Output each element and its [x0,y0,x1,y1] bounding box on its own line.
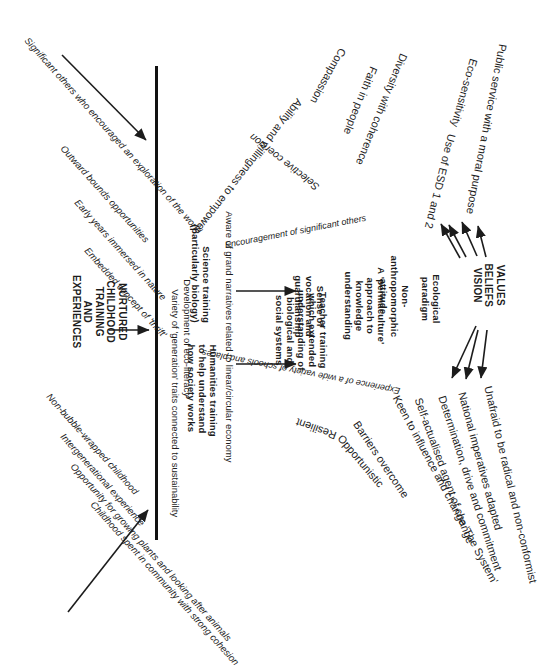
mid-non-anthropomorphic: Non- anthropomorphic attitude [378,254,411,338]
mid-permaculture-line4: understanding [342,260,353,352]
root-block-line3: TRAINING [93,265,105,359]
vision-hub-line2: BELIEFS [483,251,495,319]
arrow-hub-values-1 [441,224,460,258]
root-block-line2: CHILDHOOD [105,265,117,359]
mid-vocation: Sense of vocation and guardianship [293,267,326,345]
vision-hub-line1: VALUES [495,251,507,319]
arrow-hub-action-1 [452,326,476,378]
mid-vocation-line3: guardianship [293,267,304,345]
training-humanities-line2: to help understand [197,344,208,444]
influence-encouragement: Encouragement of significant others [224,213,367,250]
childhood-experience-4: Childhood spent in community with strong… [88,500,241,668]
vision-hub: VALUES BELIEFS VISION [472,251,507,319]
training-generation-traits: Variety of 'generation' traits connected… [170,289,181,517]
value-eco-sensitivity: Eco-sensitivity [449,57,480,128]
training-eco-literacy: Development of eco-literacy [182,279,193,397]
training-science-line1: Science training [200,223,211,323]
arrow-hub-action-2 [466,330,478,379]
arrow-hub-action-3 [481,330,487,378]
mid-vocation-line1: Sense of [314,267,325,345]
action-resilient: Resilient [294,416,338,442]
mid-permaculture-line2: approach to [364,260,375,352]
root-block-line1: NURTURED [116,265,128,359]
main-spine-line [155,66,158,540]
value-compassion: Compassion [308,46,348,105]
root-block: NURTURED CHILDHOOD TRAINING AND EXPERIEN… [70,265,128,359]
vision-hub-line3: VISION [472,251,484,319]
childhood-experience-3: Opportunity for growing plants and looki… [68,462,233,644]
root-block-line4: AND [82,265,94,359]
root-block-line5: EXPERIENCES [70,265,82,359]
mid-ecological-paradigm: Ecological paradigm [419,267,441,331]
mid-permaculture-line3: knowledge [353,260,364,352]
mid-ecological-line2: paradigm [419,267,430,331]
value-esd: Use of ESD 1 and 2 [423,133,458,230]
mid-ecological-line1: Ecological [430,267,441,331]
mid-nonanthro-line2: anthropomorphic [389,254,400,338]
arrow-hub-values-2 [449,225,466,257]
mid-nonanthro-line1: Non- [399,254,410,338]
mid-nonanthro-line3: attitude [378,254,389,338]
mid-vocation-line2: vocation and [304,267,315,345]
